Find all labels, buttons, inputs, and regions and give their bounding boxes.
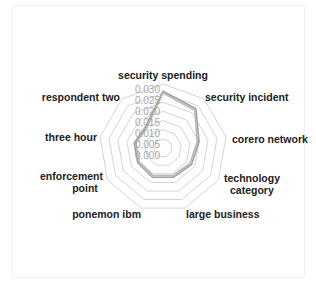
tick-0-005: 0.005 [135,139,160,150]
label-technology-category-line2: category [230,184,274,196]
label-security-spending: security spending [118,69,208,81]
label-security-incident: security incident [205,91,289,103]
tick-0-000: 0.000 [135,150,160,161]
label-large-business: large business [186,208,260,220]
label-three-hour: three hour [45,131,97,143]
label-enforcement-point-line1: enforcement [40,170,104,182]
tick-0-030: 0.030 [135,84,160,95]
grid-ring [109,93,217,199]
radial-tick-labels: 0.000 0.005 0.010 0.015 0.020 0.025 0.03… [135,84,160,161]
label-technology-category-line1: technology [224,172,280,184]
label-enforcement-point-line2: point [72,182,98,194]
label-corero-network: corero network [232,133,308,145]
radar-chart: 0.000 0.005 0.010 0.015 0.020 0.025 0.03… [0,0,316,287]
category-labels: security spending security incident core… [40,69,308,220]
tick-0-010: 0.010 [135,128,160,139]
label-respondent-two: respondent two [42,91,120,103]
tick-0-025: 0.025 [135,95,160,106]
tick-0-015: 0.015 [135,117,160,128]
tick-0-020: 0.020 [135,106,160,117]
label-ponemon-ibm: ponemon ibm [72,208,141,220]
